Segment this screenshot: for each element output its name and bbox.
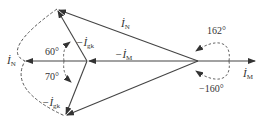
angle-arc-162: [196, 43, 229, 61]
phasor-diagram: İN −İM −İgk −İgk İN İM 60° 70° 162° −160…: [0, 0, 266, 126]
label-neg-igk-bottom: −İgk: [42, 96, 61, 110]
angle-arc-neg160: [196, 61, 229, 79]
label-im: İM: [242, 67, 254, 81]
angle-arc-60: [64, 42, 70, 61]
angle-label-162: 162°: [207, 25, 226, 36]
angle-label-70: 70°: [45, 71, 59, 82]
angle-label-neg160: −160°: [199, 83, 224, 94]
angle-arc-70: [64, 61, 71, 82]
vector-in-bottom: [67, 61, 198, 115]
angle-label-60: 60°: [45, 46, 59, 57]
vector-neg-igk-bottom: [66, 61, 87, 114]
label-in-left: İN: [6, 54, 16, 68]
label-in-top: İN: [120, 17, 130, 31]
label-neg-igk-top: −İgk: [76, 36, 95, 50]
label-neg-im: −İM: [115, 48, 133, 62]
